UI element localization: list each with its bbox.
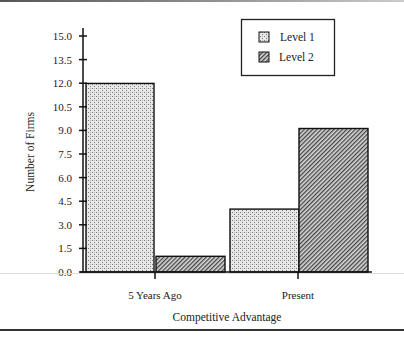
legend: Level 1 Level 2 — [242, 20, 335, 76]
legend-label: Level 2 — [279, 51, 314, 63]
y-tick-label: 13.5 — [53, 54, 73, 66]
y-tick-label: 1.5 — [58, 242, 72, 254]
y-tick-label: 12.0 — [53, 77, 73, 89]
bar-chart: 0.0 1.5 3.0 4.5 6.0 7.5 9.0 10.5 12.0 13… — [0, 0, 404, 339]
bar-level1-present — [230, 209, 299, 272]
x-axis-title: Competitive Advantage — [173, 311, 282, 324]
bottom-rule — [0, 329, 404, 331]
legend-swatch-level2 — [259, 52, 269, 62]
y-tick-label: 0.0 — [58, 266, 72, 278]
y-tick-label: 15.0 — [53, 30, 73, 42]
bars — [86, 83, 368, 272]
x-category-label: Present — [282, 289, 314, 301]
y-axis-title: Number of Firms — [24, 112, 36, 192]
legend-label: Level 1 — [280, 31, 315, 43]
y-tick-label: 3.0 — [58, 219, 72, 231]
y-axis: 0.0 1.5 3.0 4.5 6.0 7.5 9.0 10.5 12.0 13… — [53, 28, 87, 278]
y-tick-label: 10.5 — [53, 101, 73, 113]
y-tick-label: 7.5 — [58, 148, 72, 160]
legend-swatch-level1 — [259, 32, 269, 42]
x-category-label: 5 Years Ago — [128, 289, 182, 301]
y-tick-label: 9.0 — [58, 124, 72, 136]
y-tick-label: 4.5 — [58, 195, 72, 207]
y-tick-label: 6.0 — [58, 172, 72, 184]
bar-level2-5-years-ago — [156, 256, 225, 272]
bar-level2-present — [299, 129, 368, 273]
bar-level1-5-years-ago — [86, 83, 154, 272]
